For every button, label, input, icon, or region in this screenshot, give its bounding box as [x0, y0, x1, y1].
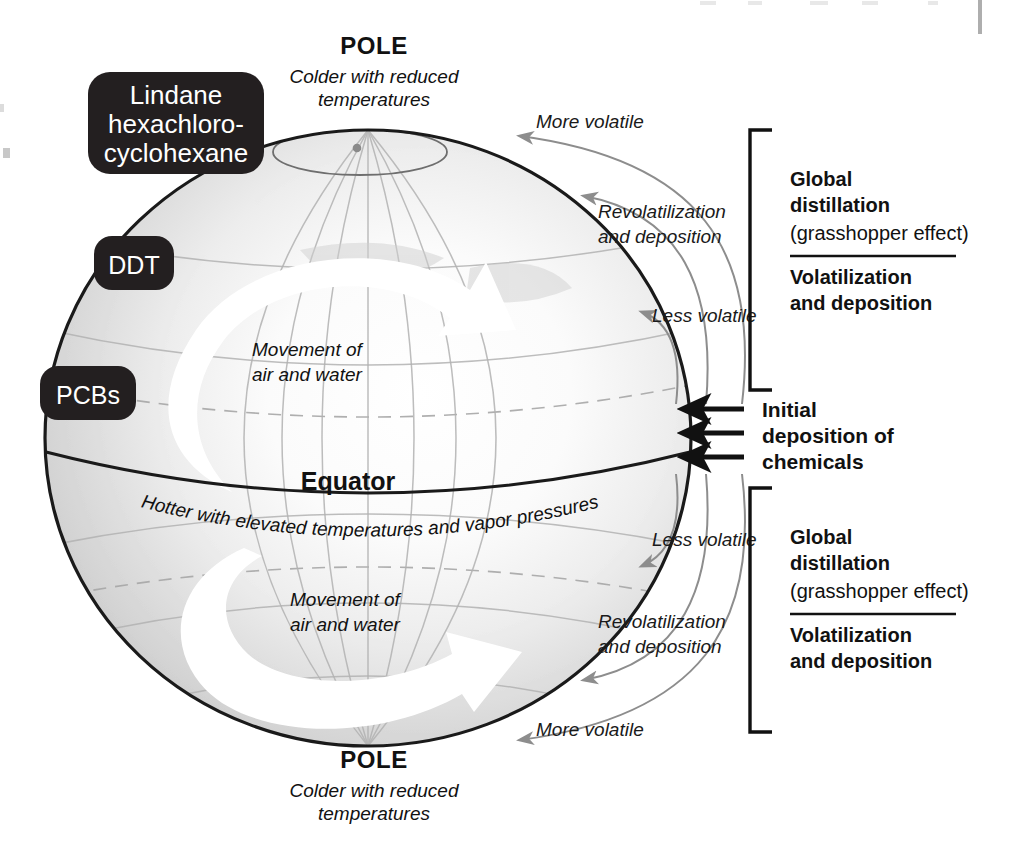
label-south-revolatilization-line1: Revolatilization	[598, 611, 726, 632]
initial-deposition-group: Initial deposition of chemicals	[684, 398, 895, 473]
south-bracket-shape	[750, 488, 772, 732]
diagram-canvas: POLE Colder with reduced temperatures PO…	[0, 0, 1012, 844]
chemical-chip-ddt[interactable]: DDT	[94, 236, 174, 290]
south-bracket-sub-line1: Volatilization	[790, 624, 912, 646]
north-bracket-shape	[750, 130, 772, 390]
label-south-revolatilization-line2: and deposition	[598, 636, 722, 657]
label-north-less-volatile: Less volatile	[652, 305, 757, 326]
chip-lindane-line1: Lindane	[130, 80, 223, 110]
south-bracket-sub-line2: and deposition	[790, 650, 932, 672]
south-bracket-heading-line2: distillation	[790, 552, 890, 574]
initial-deposition-line3: chemicals	[762, 450, 864, 473]
south-bracket-heading-line3: (grasshopper effect)	[790, 580, 969, 602]
pole-bottom-subtitle-line1: Colder with reduced	[290, 780, 460, 801]
north-bracket-sub-line2: and deposition	[790, 292, 932, 314]
chip-pcbs-label: PCBs	[56, 381, 120, 409]
movement-north-line1: Movement of	[252, 339, 364, 360]
label-south-more-volatile: More volatile	[536, 719, 644, 740]
pole-top-subtitle-line2: temperatures	[318, 89, 430, 110]
north-bracket-heading-line3: (grasshopper effect)	[790, 222, 969, 244]
chemical-chip-lindane[interactable]: Lindane hexachloro- cyclohexane	[88, 72, 264, 174]
pole-top-subtitle-line1: Colder with reduced	[290, 66, 460, 87]
initial-deposition-line1: Initial	[762, 398, 817, 421]
label-north-revolatilization-line2: and deposition	[598, 226, 722, 247]
globe	[45, 129, 691, 746]
label-north-more-volatile: More volatile	[536, 111, 644, 132]
pole-top-group: POLE Colder with reduced temperatures	[290, 32, 460, 110]
north-bracket-sub-line1: Volatilization	[790, 266, 912, 288]
chip-ddt-label: DDT	[108, 251, 159, 279]
south-bracket-heading-line1: Global	[790, 526, 852, 548]
label-south-less-volatile: Less volatile	[652, 529, 757, 550]
pole-bottom-subtitle-line2: temperatures	[318, 803, 430, 824]
label-north-revolatilization-line1: Revolatilization	[598, 201, 726, 222]
movement-north-line2: air and water	[252, 364, 363, 385]
pole-bottom-title: POLE	[340, 746, 408, 773]
north-bracket-group: Global distillation (grasshopper effect)…	[750, 130, 969, 390]
initial-deposition-line2: deposition of	[762, 424, 895, 447]
equator-label: Equator	[301, 467, 396, 495]
chemical-chip-pcbs[interactable]: PCBs	[40, 366, 136, 420]
north-pole-dot	[353, 144, 362, 153]
north-bracket-heading-line1: Global	[790, 168, 852, 190]
south-bracket-group: Global distillation (grasshopper effect)…	[750, 488, 969, 732]
pole-bottom-group: POLE Colder with reduced temperatures	[290, 746, 460, 824]
movement-south-line2: air and water	[290, 614, 401, 635]
initial-deposition-arrows	[684, 409, 744, 457]
chip-lindane-line3: cyclohexane	[104, 138, 249, 168]
pole-top-title: POLE	[340, 32, 408, 59]
movement-south-line1: Movement of	[290, 589, 402, 610]
chip-lindane-line2: hexachloro-	[108, 109, 244, 139]
north-bracket-heading-line2: distillation	[790, 194, 890, 216]
